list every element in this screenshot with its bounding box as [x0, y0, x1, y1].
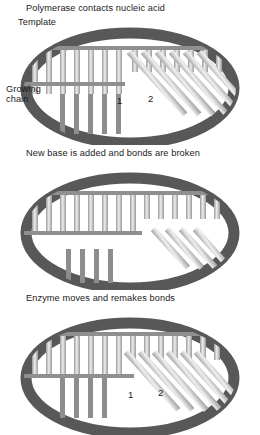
panel-new-base-added: New base is added and bonds are broken: [0, 145, 260, 290]
site-1-label: 1: [117, 96, 122, 106]
growing-chain-label-line1: Growing: [6, 84, 41, 94]
paired-bases-left: [32, 195, 136, 235]
site-1-label: 1: [128, 390, 133, 400]
panel-3-title: Enzyme moves and remakes bonds: [26, 293, 175, 303]
site-2-label: 2: [158, 388, 163, 398]
site-2-label: 2: [148, 94, 153, 104]
template-label: Template: [18, 17, 56, 27]
panel-polymerase-contacts: Polymerase contacts nucleic acid Templat…: [0, 0, 260, 145]
panel-2-graphic: [0, 145, 260, 290]
growing-chain-strand: [18, 231, 142, 235]
unpaired-bases-lower: [60, 378, 107, 418]
panel-2-title: New base is added and bonds are broken: [26, 148, 200, 158]
panel-1-title: Polymerase contacts nucleic acid: [26, 3, 165, 13]
polymerase-mechanism-figure: Polymerase contacts nucleic acid Templat…: [0, 0, 260, 435]
growing-chain-strand: [18, 374, 134, 378]
growing-chain-label-line2: chain: [6, 94, 28, 104]
growing-chain-label: Growing chain: [6, 84, 41, 104]
panel-3-graphic: [0, 290, 260, 435]
panel-enzyme-moves: Enzyme moves and remakes bonds 1 2: [0, 290, 260, 435]
